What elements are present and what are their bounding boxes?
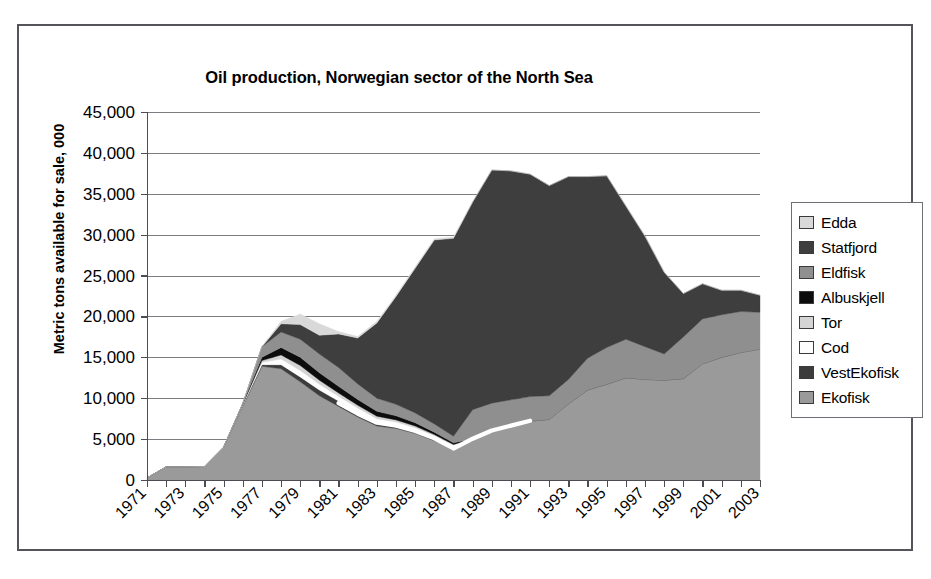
legend-label: Albuskjell	[821, 289, 884, 307]
legend-item[interactable]: Eldfisk	[799, 260, 916, 285]
x-tick-label: 1987	[418, 484, 455, 521]
x-tick-label: 1997	[610, 484, 647, 521]
legend-swatch-statfjord	[799, 241, 814, 254]
y-tick-label: 15,000	[83, 348, 135, 367]
x-tick-label: 1975	[189, 484, 226, 521]
y-tick-labels: 05,00010,00015,00020,00025,00030,00035,0…	[83, 103, 135, 490]
legend-swatch-ekofisk	[799, 391, 814, 404]
legend-swatch-cod	[799, 341, 814, 354]
legend-item[interactable]: Cod	[799, 335, 916, 360]
y-tick-label: 5,000	[92, 430, 135, 449]
legend-swatch-eldfisk	[799, 266, 814, 279]
x-tick-label: 1985	[380, 484, 417, 521]
y-tick-label: 10,000	[83, 389, 135, 408]
legend-label: Statfjord	[821, 239, 877, 257]
legend-item[interactable]: Edda	[799, 210, 916, 235]
legend-swatch-edda	[799, 216, 814, 229]
y-tick-label: 45,000	[83, 103, 135, 122]
x-tick-label: 1979	[265, 484, 302, 521]
legend-item[interactable]: Ekofisk	[799, 385, 916, 410]
legend-swatch-vestekofisk	[799, 366, 814, 379]
x-tick-label: 1983	[342, 484, 379, 521]
x-tick-label: 2001	[687, 484, 724, 521]
y-tick-label: 40,000	[83, 144, 135, 163]
x-tick-label: 1993	[533, 484, 570, 521]
legend-label: Edda	[821, 214, 856, 232]
plot-area: 05,00010,00015,00020,00025,00030,00035,0…	[19, 26, 915, 553]
x-tick-label: 1995	[572, 484, 609, 521]
x-tick-label: 1973	[150, 484, 187, 521]
legend-swatch-albuskjell	[799, 291, 814, 304]
chart-figure: Oil production, Norwegian sector of the …	[0, 0, 931, 579]
y-tick-label: 20,000	[83, 307, 135, 326]
y-tick-label: 30,000	[83, 226, 135, 245]
x-tick-label: 1971	[112, 484, 149, 521]
legend-label: Tor	[821, 314, 842, 332]
legend-item[interactable]: VestEkofisk	[799, 360, 916, 385]
x-tick-label: 2003	[725, 484, 762, 521]
legend-label: Eldfisk	[821, 264, 865, 282]
legend: Edda Statfjord Eldfisk Albuskjell Tor Co…	[791, 202, 923, 418]
legend-label: Cod	[821, 339, 849, 357]
x-tick-label: 1999	[648, 484, 685, 521]
legend-swatch-tor	[799, 316, 814, 329]
legend-item[interactable]: Statfjord	[799, 235, 916, 260]
x-tick-label: 1991	[495, 484, 532, 521]
legend-label: VestEkofisk	[821, 364, 899, 382]
legend-label: Ekofisk	[821, 389, 870, 407]
legend-item[interactable]: Tor	[799, 310, 916, 335]
y-tick-label: 35,000	[83, 185, 135, 204]
legend-item[interactable]: Albuskjell	[799, 285, 916, 310]
chart-frame: Oil production, Norwegian sector of the …	[17, 24, 913, 551]
x-tick-labels: 1971197319751977197919811983198519871989…	[112, 484, 762, 521]
y-tick-label: 25,000	[83, 267, 135, 286]
x-tick-label: 1989	[457, 484, 494, 521]
x-tick-label: 1981	[303, 484, 340, 521]
x-tick-label: 1977	[227, 484, 264, 521]
stacked-area-series	[147, 170, 760, 480]
